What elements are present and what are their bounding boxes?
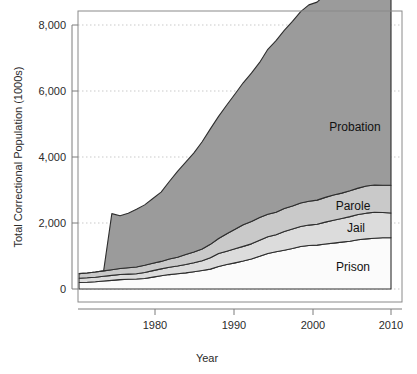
y-tick-label-0: 0 (60, 283, 66, 295)
y-axis: 8,000 6,000 4,000 2,000 0 (38, 19, 78, 295)
y-tick-label-4000: 4,000 (38, 151, 66, 163)
series-label-probation: Probation (329, 120, 380, 134)
x-tick-label-1980: 1980 (143, 319, 167, 331)
series-label-jail: Jail (347, 221, 365, 235)
y-tick-label-8000: 8,000 (38, 19, 66, 31)
stacked-area-chart: 8,000 6,000 4,000 2,000 0 1980 1990 2000… (0, 0, 417, 374)
series-label-prison: Prison (336, 260, 370, 274)
x-axis: 1980 1990 2000 2010 (78, 309, 403, 331)
x-tick-label-1990: 1990 (222, 319, 246, 331)
y-axis-title: Total Correctional Population (1000s) (12, 67, 24, 248)
x-tick-label-2000: 2000 (301, 319, 325, 331)
x-axis-title: Year (196, 352, 219, 364)
chart-figure: 8,000 6,000 4,000 2,000 0 1980 1990 2000… (0, 0, 417, 374)
x-tick-label-2010: 2010 (379, 319, 403, 331)
y-tick-label-6000: 6,000 (38, 85, 66, 97)
y-tick-label-2000: 2,000 (38, 217, 66, 229)
series-label-parole: Parole (336, 199, 371, 213)
